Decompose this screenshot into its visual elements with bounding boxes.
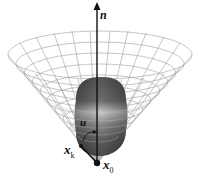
origin-label-x0: x0: [103, 158, 114, 175]
x0-sub: 0: [110, 166, 114, 175]
point-label-xk: xk: [64, 143, 75, 160]
control-label-u: u: [80, 117, 86, 128]
cone-diagram: [0, 0, 198, 177]
xk-sub: k: [71, 151, 75, 160]
axis-label-n: n: [100, 9, 107, 21]
